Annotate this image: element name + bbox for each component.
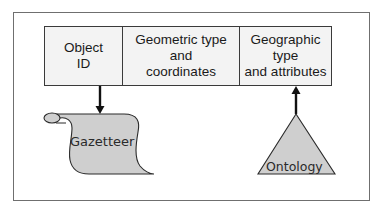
geometric-type-cell: Geometric type and coordinates <box>122 27 239 85</box>
gazetteer-label: Gazetteer <box>70 134 134 149</box>
object-id-cell: Object ID <box>45 27 122 85</box>
record-structure-table: Object ID Geometric type and coordinates… <box>44 26 332 86</box>
geographic-type-cell: Geographic type and attributes <box>239 27 331 85</box>
ontology-label: Ontology <box>266 159 323 174</box>
